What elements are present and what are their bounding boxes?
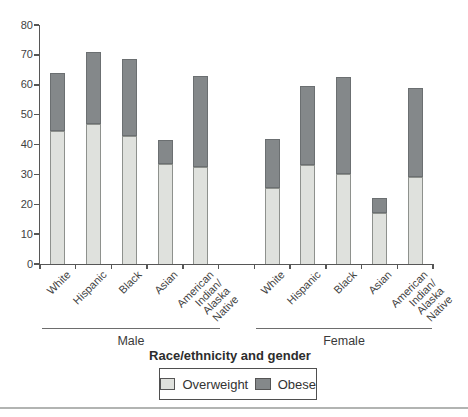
bar-male-hispanic-overweight bbox=[86, 124, 101, 264]
x-axis-tick bbox=[39, 264, 41, 269]
y-axis-tick bbox=[34, 174, 39, 176]
y-axis-tick bbox=[34, 114, 39, 116]
bar-female-american-overweight bbox=[408, 177, 423, 264]
legend-label-obese: Obese bbox=[278, 377, 316, 392]
bar-female-white-overweight bbox=[265, 188, 280, 264]
x-axis-tick bbox=[361, 264, 363, 269]
y-tick-label: 0 bbox=[7, 258, 33, 271]
bar-male-american-overweight bbox=[193, 167, 208, 264]
female-group-underline bbox=[256, 328, 432, 329]
x-axis-tick bbox=[182, 264, 184, 269]
y-axis-tick bbox=[34, 54, 39, 56]
bar-male-asian-overweight bbox=[158, 164, 173, 264]
y-tick-label: 50 bbox=[7, 108, 33, 121]
x-axis-tick bbox=[218, 264, 220, 269]
x-axis-tick bbox=[254, 264, 256, 269]
y-tick-label: 20 bbox=[7, 198, 33, 211]
y-tick-label: 70 bbox=[7, 48, 33, 61]
y-tick-label: 80 bbox=[7, 19, 33, 32]
y-axis-tick bbox=[34, 84, 39, 86]
y-tick-label: 10 bbox=[7, 228, 33, 241]
bar-male-black-obese bbox=[122, 59, 137, 135]
group-label-male: Male bbox=[42, 334, 220, 348]
x-axis-tick bbox=[289, 264, 291, 269]
bar-male-black-overweight bbox=[122, 136, 137, 264]
bar-female-black-obese bbox=[336, 77, 351, 174]
y-axis-tick bbox=[34, 204, 39, 206]
bar-female-asian-overweight bbox=[372, 213, 387, 264]
bar-female-white-obese bbox=[265, 139, 280, 188]
bar-male-american-obese bbox=[193, 76, 208, 167]
group-label-female: Female bbox=[256, 334, 432, 348]
x-axis-title: Race/ethnicity and gender bbox=[40, 348, 420, 363]
bar-male-asian-obese bbox=[158, 140, 173, 164]
x-axis-tick bbox=[75, 264, 77, 269]
bar-female-black-overweight bbox=[336, 174, 351, 264]
bar-female-american-obese bbox=[408, 88, 423, 178]
bar-male-white-obese bbox=[50, 73, 65, 131]
y-axis-tick bbox=[34, 24, 39, 26]
legend: Overweight Obese bbox=[159, 368, 317, 400]
male-group-underline bbox=[42, 328, 220, 329]
x-axis-tick bbox=[397, 264, 399, 269]
bar-male-white-overweight bbox=[50, 131, 65, 264]
legend-label-overweight: Overweight bbox=[182, 377, 248, 392]
y-axis-tick bbox=[34, 144, 39, 146]
y-tick-label: 60 bbox=[7, 78, 33, 91]
y-axis-tick bbox=[34, 233, 39, 235]
x-axis-tick bbox=[432, 264, 434, 269]
legend-swatch-overweight bbox=[160, 378, 175, 390]
x-axis-tick bbox=[111, 264, 113, 269]
bar-female-hispanic-overweight bbox=[300, 165, 315, 264]
y-axis-tick bbox=[34, 263, 39, 265]
bar-female-hispanic-obese bbox=[300, 86, 315, 165]
bar-male-hispanic-obese bbox=[86, 52, 101, 124]
legend-swatch-obese bbox=[255, 378, 270, 390]
bar-female-asian-obese bbox=[372, 198, 387, 213]
y-axis-line bbox=[39, 25, 41, 264]
y-tick-label: 30 bbox=[7, 168, 33, 181]
x-axis-tick bbox=[325, 264, 327, 269]
page-bottom-rule bbox=[0, 407, 468, 409]
x-axis-tick bbox=[146, 264, 148, 269]
stacked-bar-chart-figure: 01020304050607080WhiteHispanicBlackAsian… bbox=[0, 0, 468, 417]
y-tick-label: 40 bbox=[7, 138, 33, 151]
